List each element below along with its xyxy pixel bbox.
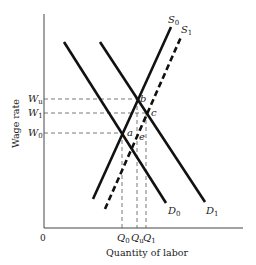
label-w1: W1: [28, 107, 43, 120]
x-axis-title: Quantity of labor: [106, 247, 189, 258]
supply-curve-s0: [93, 27, 171, 199]
point-b: b: [140, 93, 146, 104]
label-d1: D1: [205, 205, 219, 218]
labor-market-diagram: S0 S1 D0 D1 b c a e Wu W1 W0 Wage rate Q…: [0, 0, 256, 265]
point-c: c: [151, 107, 157, 118]
label-d0: D0: [167, 205, 181, 218]
point-a: a: [127, 127, 133, 138]
label-w0: W0: [28, 127, 43, 140]
point-e: e: [139, 131, 145, 142]
y-axis-title: Wage rate: [10, 99, 21, 148]
origin-label: 0: [40, 233, 46, 243]
label-wu: Wu: [28, 93, 43, 106]
label-s0: S0: [168, 14, 179, 27]
label-q0: Q0: [117, 232, 130, 245]
label-s1: S1: [181, 24, 192, 37]
label-q1: Q1: [143, 232, 156, 245]
